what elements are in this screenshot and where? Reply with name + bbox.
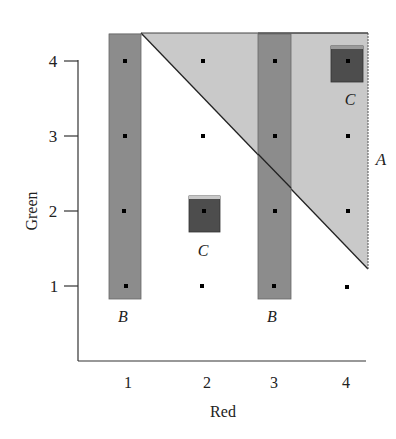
region-c4-label: C: [345, 91, 356, 108]
y-tick-1: 1: [50, 277, 59, 296]
diagram: 4 3 2 1 1 2 3 4 Red Green A B B C C: [0, 0, 396, 439]
region-a-label: A: [375, 150, 387, 169]
region-c2-label: C: [198, 242, 209, 259]
x-axis-label: Red: [210, 403, 236, 420]
region-c-square-4-4: [331, 46, 363, 82]
y-tick-2: 2: [49, 202, 58, 221]
region-c-square-2-2: [189, 196, 220, 232]
region-b-column-3: [258, 34, 291, 299]
region-b1-label: B: [118, 308, 128, 325]
region-b-column-1: [109, 34, 141, 299]
y-axis-label: Green: [23, 191, 40, 230]
x-tick-3: 3: [270, 374, 278, 391]
y-tick-3: 3: [49, 127, 58, 146]
y-tick-4: 4: [49, 52, 58, 71]
y-ticks: [64, 61, 78, 286]
x-tick-1: 1: [124, 374, 132, 391]
x-tick-4: 4: [342, 374, 350, 391]
x-tick-2: 2: [203, 374, 211, 391]
region-b3-label: B: [267, 308, 277, 325]
